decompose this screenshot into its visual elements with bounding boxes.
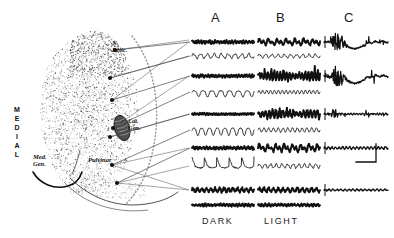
structure-label-med-gen: Med.Gen. bbox=[33, 154, 47, 168]
recording-site-site-4 bbox=[111, 126, 115, 130]
structure-label-n-retic: N.Retic. bbox=[112, 40, 127, 54]
structure-label-lat-gen: Lat.Gen. bbox=[128, 118, 141, 132]
trace-col-a-row4 bbox=[192, 113, 254, 115]
trace-col-a-row2 bbox=[192, 74, 254, 78]
recording-site-site-3 bbox=[110, 98, 114, 102]
recording-site-site-7 bbox=[115, 181, 119, 185]
trace-col-b-row8 bbox=[258, 187, 320, 193]
orientation-label-medial: MEDIAL bbox=[12, 105, 22, 159]
recording-site-site-2 bbox=[108, 76, 112, 80]
column-header-c: C bbox=[344, 10, 354, 25]
condition-label-dark: DARK bbox=[202, 216, 233, 226]
trace-col-a-row9 bbox=[192, 203, 254, 206]
figure-svg bbox=[0, 0, 394, 238]
recording-site-site-5 bbox=[108, 135, 112, 139]
figure-canvas: MEDIAL N.Retic. Lat.Gen. Pulvinar Med.Ge… bbox=[0, 0, 394, 238]
column-header-a: A bbox=[211, 10, 220, 25]
structure-label-pulvinar: Pulvinar bbox=[88, 157, 111, 164]
column-header-b: B bbox=[276, 10, 285, 25]
condition-label-light: LIGHT bbox=[264, 216, 299, 226]
